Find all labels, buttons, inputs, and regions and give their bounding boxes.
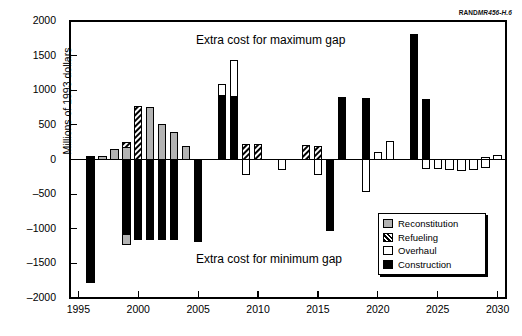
bar-group-2025 [434,160,441,169]
y-tick-label: –1500 [16,257,56,267]
legend-item-construction: Construction [383,258,481,272]
x-tick-label: 2000 [116,303,160,315]
bar-segment-refueling [135,106,142,159]
y-tick-label: –1000 [16,223,56,233]
bar-group-2029 [482,157,489,168]
bar-segment-reconstitution [123,234,130,244]
legend-label-reconstitution: Reconstitution [398,218,458,229]
bar-segment-construction [218,96,225,160]
refueling-swatch-icon [383,233,393,242]
y-axis-label: Millions of 1993 dollars [61,36,73,166]
bar-group-2002 [159,125,166,239]
credit-suffix: MR456-H.6 [478,9,512,16]
bar-group-2024 [422,100,429,169]
bar-segment-overhaul [494,155,501,160]
bar-segment-overhaul [434,160,441,169]
bar-segment-construction [338,98,345,160]
bar-segment-refueling [242,145,249,160]
bar-segment-overhaul [374,152,381,159]
bar-segment-construction [87,160,94,283]
y-tick-label: 2000 [16,15,56,25]
y-axis-tick-labels: 2000150010005000–500–1000–1500–2000 [12,0,56,336]
bar-segment-construction [135,160,142,240]
legend-label-construction: Construction [398,259,451,270]
y-tick-label: –500 [16,188,56,198]
bar-segment-overhaul [446,160,453,170]
bar-segment-overhaul [482,160,489,168]
bar-segment-reconstitution [159,125,166,160]
x-tick-label: 2020 [356,303,400,315]
bar-segment-reconstitution [182,146,189,159]
bar-group-2026 [446,160,453,170]
bar-segment-construction [147,160,154,240]
legend: Reconstitution Refueling Overhaul Constr… [378,213,486,275]
bar-segment-overhaul [230,60,237,96]
x-tick-label: 2005 [176,303,220,315]
bar-segment-refueling [254,145,261,160]
bar-segment-construction [230,96,237,159]
overhaul-swatch-icon [383,246,393,255]
bar-group-2017 [338,98,345,160]
bar-group-2028 [470,160,477,170]
bar-segment-reconstitution [123,147,130,159]
construction-swatch-icon [383,260,393,269]
bar-group-1999 [123,142,130,244]
bar-group-2012 [278,160,285,170]
credit-prefix: RAND [459,9,478,16]
bar-group-2015 [314,146,321,174]
bar-group-1996 [87,157,94,283]
bar-segment-overhaul [458,160,465,171]
bar-segment-reconstitution [111,149,118,159]
bar-group-2001 [147,108,154,239]
plot-area [0,0,522,336]
bar-group-2008 [230,60,237,159]
x-tick-label: 2015 [296,303,340,315]
x-tick-label: 2030 [476,303,520,315]
legend-item-overhaul: Overhaul [383,244,481,258]
rand-credit-label: RANDMR456-H.6 [459,9,512,16]
bar-group-2010 [254,145,261,160]
y-tick-label: 0 [16,154,56,164]
legend-item-refueling: Refueling [383,231,481,245]
bar-group-2021 [386,142,393,160]
bar-group-2007 [218,84,225,159]
bar-group-2016 [326,160,333,231]
x-tick-label: 2025 [416,303,460,315]
x-tick-label: 2010 [236,303,280,315]
bar-group-2014 [302,146,309,160]
annotation-maximum-gap: Extra cost for maximum gap [196,33,345,47]
x-tick-label: 1995 [56,303,100,315]
bar-segment-overhaul [314,160,321,175]
bar-segment-overhaul [422,160,429,169]
bar-group-2000 [135,106,142,239]
bar-segment-construction [410,35,417,160]
bar-segment-overhaul [218,84,225,95]
bar-segment-construction [123,160,130,235]
bar-group-2003 [171,132,178,239]
legend-label-refueling: Refueling [398,232,438,243]
y-tick-label: –2000 [16,292,56,302]
bar-group-2004 [182,146,189,159]
bar-segment-overhaul [386,142,393,160]
bar-group-2019 [362,98,369,191]
y-tick-label: 500 [16,119,56,129]
y-tick-label: 1500 [16,50,56,60]
figure-container: RANDMR456-H.6 Millions of 1993 dollars 2… [0,0,522,336]
bar-segment-reconstitution [171,132,178,159]
bar-segment-construction [194,160,201,242]
bar-segment-construction [171,160,178,240]
annotation-minimum-gap: Extra cost for minimum gap [196,252,342,266]
bar-segment-construction [326,160,333,231]
bar-segment-refueling [302,146,309,160]
reconstitution-swatch-icon [383,219,393,228]
bar-group-2030 [494,155,501,160]
bar-group-2005 [194,160,201,242]
legend-label-overhaul: Overhaul [398,245,437,256]
legend-item-reconstitution: Reconstitution [383,217,481,231]
bar-group-2023 [410,35,417,160]
bar-segment-reconstitution [147,108,154,160]
bar-group-2027 [458,160,465,171]
bar-segment-overhaul [362,160,369,192]
bar-group-2020 [374,152,381,159]
bar-group-1998 [111,149,118,159]
